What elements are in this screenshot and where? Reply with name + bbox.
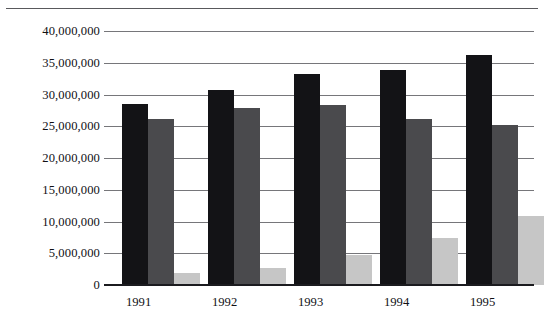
bar [380,70,406,285]
bar [406,119,432,285]
y-axis-tick-label: 40,000,000 [0,25,100,38]
x-axis-tick-label: 1991 [104,291,190,317]
bar-group [276,31,362,285]
bar-groups [104,31,534,285]
y-axis-tick-label: 10,000,000 [0,216,100,229]
x-axis-tick-labels: 19911992199319941995 [104,291,534,317]
bar [234,108,260,285]
y-axis-tick-label: 0 [0,279,100,292]
y-axis-tick-label: 5,000,000 [0,247,100,260]
bar [466,55,492,285]
bar [320,105,346,285]
bar-group [190,31,276,285]
y-axis-tick-label: 35,000,000 [0,57,100,70]
y-axis-tick-label: 20,000,000 [0,152,100,165]
x-axis-tick-label: 1994 [362,291,448,317]
x-axis-tick-label: 1992 [190,291,276,317]
bar [208,90,234,285]
bar [294,74,320,285]
plot-area [104,31,534,285]
bar [122,104,148,285]
y-axis-tick-label: 15,000,000 [0,184,100,197]
bar [492,125,518,285]
bar-group [448,31,534,285]
bar-group [362,31,448,285]
bar [518,216,544,285]
y-axis-tick-label: 30,000,000 [0,89,100,102]
y-axis-tick-labels: 40,000,00035,000,00030,000,00025,000,000… [0,0,100,336]
x-axis-baseline [104,284,534,286]
bar-chart: 40,000,00035,000,00030,000,00025,000,000… [0,0,544,336]
x-axis-tick-label: 1995 [448,291,534,317]
y-axis-tick-label: 25,000,000 [0,120,100,133]
x-axis-tick-label: 1993 [276,291,362,317]
bar-group [104,31,190,285]
bar [148,119,174,285]
